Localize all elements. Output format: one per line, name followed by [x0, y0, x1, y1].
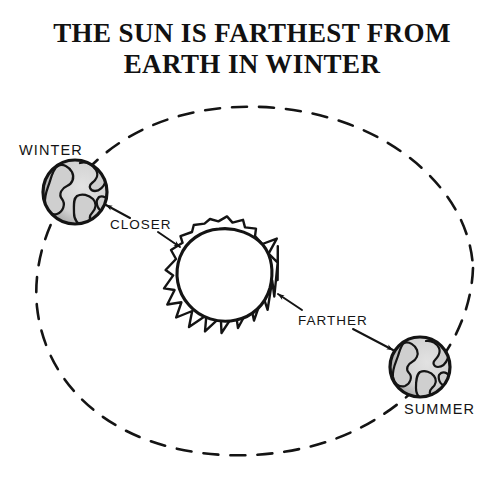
sun-disc [177, 229, 272, 322]
label-farther: FARTHER [298, 313, 368, 328]
closer-arrow-to-sun [158, 232, 180, 247]
earth-summer: SUMMER [390, 337, 475, 417]
annotation-closer: CLOSER [106, 205, 180, 247]
annotation-farther: FARTHER [278, 294, 393, 350]
orbit-diagram: WINTER SUMMER CLOSER FARTHER [0, 0, 504, 478]
sun [164, 216, 278, 333]
label-winter: WINTER [19, 142, 83, 158]
farther-arrow-to-sun [278, 294, 302, 310]
label-summer: SUMMER [404, 401, 475, 417]
earth-winter: WINTER [19, 142, 109, 226]
farther-arrow-to-earth [353, 329, 393, 350]
diagram-page: THE SUN IS FARTHEST FROM EARTH IN WINTER [0, 0, 504, 478]
label-closer: CLOSER [110, 217, 172, 232]
